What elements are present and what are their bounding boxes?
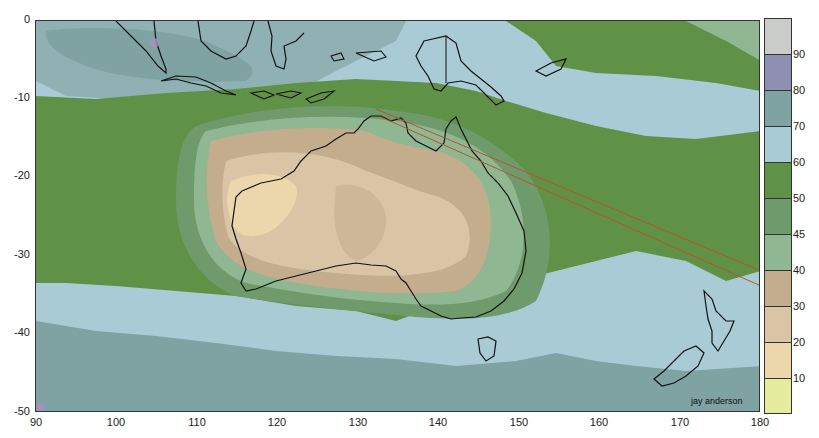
colorbar-label-90: 90 — [793, 48, 805, 60]
colorbar — [764, 18, 792, 414]
x-tick-160: 160 — [584, 416, 614, 428]
colorbar-bin-20-30 — [765, 307, 791, 343]
x-tick-180: 180 — [745, 416, 775, 428]
colorbar-bin-40-45 — [765, 235, 791, 271]
colorbar-label-50: 50 — [793, 192, 805, 204]
y-tick-minus30: -30 — [2, 248, 30, 260]
x-tick-130: 130 — [343, 416, 373, 428]
x-tick-110: 110 — [182, 416, 212, 428]
colorbar-bin-60-70 — [765, 127, 791, 163]
y-tick-minus40: -40 — [2, 326, 30, 338]
colorbar-label-30: 30 — [793, 300, 805, 312]
x-tick-150: 150 — [504, 416, 534, 428]
colorbar-bin-50-60 — [765, 163, 791, 199]
colorbar-bin-30-40 — [765, 271, 791, 307]
colorbar-bin-70-80 — [765, 91, 791, 127]
map-canvas — [36, 21, 760, 412]
colorbar-bin-45-50 — [765, 199, 791, 235]
colorbar-label-80: 80 — [793, 84, 805, 96]
colorbar-label-20: 20 — [793, 336, 805, 348]
x-tick-100: 100 — [101, 416, 131, 428]
x-tick-140: 140 — [423, 416, 453, 428]
x-tick-170: 170 — [665, 416, 695, 428]
colorbar-bin-0-10 — [765, 379, 791, 413]
credit-label: jay anderson — [691, 396, 743, 406]
colorbar-bin-90-100 — [765, 19, 791, 55]
colorbar-label-10: 10 — [793, 372, 805, 384]
y-tick-minus20: -20 — [2, 169, 30, 181]
colorbar-label-45: 45 — [793, 228, 805, 240]
y-tick-minus10: -10 — [2, 91, 30, 103]
colorbar-bin-10-20 — [765, 343, 791, 379]
x-tick-120: 120 — [262, 416, 292, 428]
colorbar-bin-80-90 — [765, 55, 791, 91]
y-tick-0: 0 — [2, 13, 30, 25]
colorbar-label-60: 60 — [793, 156, 805, 168]
colorbar-label-40: 40 — [793, 264, 805, 276]
cloud-cover-map: jay anderson — [35, 20, 760, 412]
x-tick-90: 90 — [21, 416, 51, 428]
colorbar-label-70: 70 — [793, 120, 805, 132]
